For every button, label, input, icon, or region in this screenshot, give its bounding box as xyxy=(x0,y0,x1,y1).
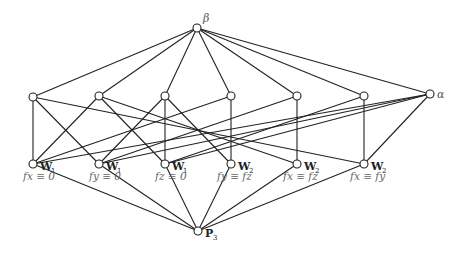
node-b6 xyxy=(360,160,368,168)
node-b3 xyxy=(161,160,169,168)
edge-beta-m6 xyxy=(197,28,364,96)
edge-beta-m2 xyxy=(99,28,197,96)
edge-alpha-b6 xyxy=(364,94,430,164)
label-beta: β xyxy=(202,12,209,25)
edge-m4-b1 xyxy=(33,96,231,164)
node-m3 xyxy=(161,92,169,100)
node-p3 xyxy=(194,227,202,235)
label-sub-p3: 3 xyxy=(213,234,217,242)
node-beta xyxy=(193,24,201,32)
node-b2 xyxy=(95,160,103,168)
node-m4 xyxy=(227,92,235,100)
lattice-diagram: βαW1fx ≡ 0W1fy ≡ 0W1fz ≡ 0W2fy ≡ fzW2fx … xyxy=(0,0,461,253)
node-m5 xyxy=(293,92,301,100)
node-m2 xyxy=(95,92,103,100)
label-eq-b1: fx ≡ 0 xyxy=(22,170,55,182)
edges xyxy=(33,28,430,231)
label-eq-b4: fy ≡ fz xyxy=(216,170,252,182)
label-eq-b2: fy ≡ 0 xyxy=(88,170,121,182)
label-eq-b6: fx ≡ fy xyxy=(349,170,386,182)
edge-beta-m4 xyxy=(197,28,231,96)
node-b5 xyxy=(293,160,301,168)
node-b4 xyxy=(227,160,235,168)
node-alpha xyxy=(426,90,434,98)
node-m1 xyxy=(29,93,37,101)
node-m6 xyxy=(360,92,368,100)
label-eq-b3: fz ≡ 0 xyxy=(154,170,187,182)
node-b1 xyxy=(29,160,37,168)
edge-beta-m3 xyxy=(165,28,197,96)
edge-beta-m5 xyxy=(197,28,297,96)
label-eq-b5: fx ≡ fz xyxy=(282,170,318,182)
edge-beta-m1 xyxy=(33,28,197,97)
edge-alpha-b2 xyxy=(99,94,430,164)
edge-beta-alpha xyxy=(197,28,430,94)
label-alpha: α xyxy=(437,88,445,101)
